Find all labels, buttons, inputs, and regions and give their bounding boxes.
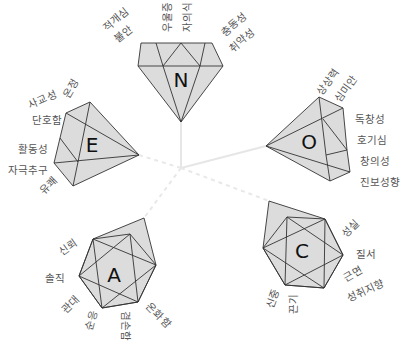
facet-label: 사교성 bbox=[26, 88, 58, 112]
gem-a: A bbox=[79, 218, 156, 308]
facet-label: 독창성 bbox=[355, 113, 385, 125]
facet-label: 우울증 bbox=[161, 2, 173, 32]
facet-label: 겸손함 bbox=[120, 311, 132, 341]
spoke-o bbox=[181, 146, 266, 168]
facet-label: 신중 bbox=[263, 287, 281, 310]
factor-letter-o: O bbox=[301, 130, 317, 154]
facet-label: 유쾌 bbox=[37, 174, 60, 197]
spoke-a bbox=[144, 168, 181, 218]
gem-n: N bbox=[138, 43, 223, 122]
factor-letter-a: A bbox=[107, 263, 121, 287]
facet-label: 근면 bbox=[341, 263, 364, 283]
gem-o: O bbox=[266, 97, 350, 181]
factor-letter-e: E bbox=[86, 133, 99, 157]
big-five-diagram: N 적개심 불안 우울증 자의식 충동성 취약성 E 온정 사교성 단호함 활동… bbox=[0, 0, 401, 347]
facet-label: 진보성향 bbox=[360, 176, 400, 188]
factor-letter-n: N bbox=[174, 68, 189, 92]
facet-label: 솔직 bbox=[45, 272, 65, 284]
spoke-e bbox=[139, 155, 181, 168]
facet-label: 신뢰 bbox=[56, 236, 79, 257]
facet-label: 단호함 bbox=[32, 114, 62, 126]
facet-label: 자극추구 bbox=[8, 164, 48, 176]
facet-label: 창의성 bbox=[360, 155, 390, 167]
gem-c: C bbox=[263, 201, 343, 288]
facet-label: 관대 bbox=[59, 293, 82, 316]
facet-label: 성실 bbox=[339, 217, 362, 240]
facet-label: 호기심 bbox=[357, 134, 387, 146]
facet-label: 온화함 bbox=[144, 300, 174, 330]
factor-letter-c: C bbox=[295, 239, 309, 263]
spoke-c bbox=[181, 168, 269, 201]
facet-label: 질서 bbox=[356, 248, 376, 260]
gem-e: E bbox=[54, 102, 139, 186]
facet-label: 활동성 bbox=[18, 143, 48, 155]
facet-label: 순응 bbox=[83, 309, 100, 331]
facet-label: 자의식 bbox=[181, 2, 193, 32]
facet-label: 온정 bbox=[60, 76, 80, 99]
facet-label: 끈기 bbox=[287, 294, 299, 314]
spokes bbox=[139, 122, 269, 218]
